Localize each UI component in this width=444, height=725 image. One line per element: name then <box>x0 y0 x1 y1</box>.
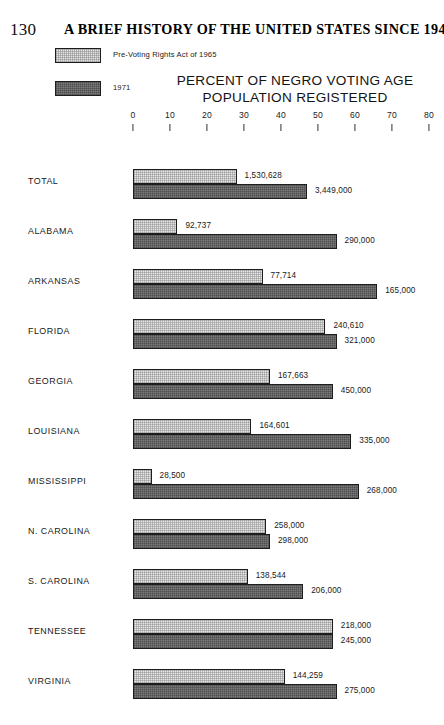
bar-value-label: 1,530,628 <box>245 171 282 180</box>
bar-value-label: 298,000 <box>278 536 308 545</box>
x-axis-tick-mark <box>317 124 318 131</box>
bar-value-label: 450,000 <box>341 386 371 395</box>
chart-row: LOUISIANA164,601335,000 <box>0 411 444 457</box>
chart-row: ALABAMA92,737290,000 <box>0 211 444 257</box>
bar-dark <box>133 484 359 499</box>
legend-label-pre-voting-rights-act: Pre-Voting Rights Act of 1965 <box>113 50 217 59</box>
chart-row: GEORGIA167,663450,000 <box>0 361 444 407</box>
bar-dark <box>133 634 333 649</box>
bar-value-label: 28,500 <box>160 471 186 480</box>
legend-label-1971: 1971 <box>113 83 131 92</box>
bar-light <box>133 619 333 634</box>
bar-value-label: 144,259 <box>293 671 323 680</box>
bar-dark <box>133 234 337 249</box>
bar-light <box>133 219 177 234</box>
bar-value-label: 77,714 <box>271 271 297 280</box>
x-axis-tick-mark <box>169 124 170 131</box>
legend-swatch-light-icon <box>55 48 101 63</box>
x-axis-tick-label: 50 <box>313 110 323 120</box>
bar-light <box>133 519 266 534</box>
bar-value-label: 258,000 <box>274 521 304 530</box>
row-category-label: TENNESSEE <box>28 626 86 636</box>
chart-title-line-2: POPULATION REGISTERED <box>150 89 440 106</box>
row-category-label: LOUISIANA <box>28 426 80 436</box>
bar-value-label: 167,663 <box>278 371 308 380</box>
bar-light <box>133 469 152 484</box>
chart-row: TOTAL1,530,6283,449,000 <box>0 161 444 207</box>
row-category-label: S. CAROLINA <box>28 576 90 586</box>
bar-dark <box>133 334 337 349</box>
x-axis: 01020304050607080 <box>0 110 444 136</box>
row-category-label: FLORIDA <box>28 326 70 336</box>
x-axis-tick-label: 20 <box>202 110 212 120</box>
bar-light <box>133 669 285 684</box>
bar-light <box>133 419 251 434</box>
bar-value-label: 138,544 <box>256 571 286 580</box>
x-axis-tick-mark <box>280 124 281 131</box>
x-axis-tick-mark <box>206 124 207 131</box>
bar-value-label: 290,000 <box>345 236 375 245</box>
chart-row: TENNESSEE218,000245,000 <box>0 611 444 657</box>
bar-light <box>133 569 248 584</box>
chart-row: ARKANSAS77,714165,000 <box>0 261 444 307</box>
chart-row: FLORIDA240,610321,000 <box>0 311 444 357</box>
x-axis-tick-label: 0 <box>131 110 136 120</box>
bar-value-label: 245,000 <box>341 636 371 645</box>
bar-dark <box>133 384 333 399</box>
chart-plot-area: TOTAL1,530,6283,449,000ALABAMA92,737290,… <box>0 145 444 725</box>
row-category-label: ARKANSAS <box>28 276 80 286</box>
bar-value-label: 335,000 <box>359 436 389 445</box>
x-axis-tick-label: 30 <box>239 110 249 120</box>
bar-value-label: 268,000 <box>367 486 397 495</box>
bar-value-label: 3,449,000 <box>315 186 352 195</box>
bar-value-label: 321,000 <box>345 336 375 345</box>
x-axis-tick-mark <box>391 124 392 131</box>
chart-row: MISSISSIPPI28,500268,000 <box>0 461 444 507</box>
row-category-label: ALABAMA <box>28 226 73 236</box>
bar-light <box>133 269 263 284</box>
x-axis-tick-mark <box>132 124 133 131</box>
bar-light <box>133 369 270 384</box>
bar-dark <box>133 184 307 199</box>
x-axis-tick-label: 80 <box>424 110 434 120</box>
bar-dark <box>133 584 303 599</box>
bar-dark <box>133 284 377 299</box>
chart-title-line-1: PERCENT OF NEGRO VOTING AGE <box>150 72 440 89</box>
chart-row: VIRGINIA144,259275,000 <box>0 661 444 707</box>
bar-light <box>133 169 237 184</box>
bar-value-label: 92,737 <box>185 221 211 230</box>
chart-title: PERCENT OF NEGRO VOTING AGE POPULATION R… <box>150 72 440 106</box>
row-category-label: GEORGIA <box>28 376 73 386</box>
bar-value-label: 218,000 <box>341 621 371 630</box>
x-axis-tick-label: 10 <box>165 110 175 120</box>
bar-value-label: 206,000 <box>311 586 341 595</box>
bar-value-label: 165,000 <box>385 286 415 295</box>
chart-row: S. CAROLINA138,544206,000 <box>0 561 444 607</box>
bar-value-label: 275,000 <box>345 686 375 695</box>
x-axis-tick-mark <box>428 124 429 131</box>
chart-row: N. CAROLINA258,000298,000 <box>0 511 444 557</box>
x-axis-tick-label: 70 <box>387 110 397 120</box>
x-axis-tick-label: 40 <box>276 110 286 120</box>
bar-value-label: 240,610 <box>333 321 363 330</box>
bar-value-label: 164,601 <box>259 421 289 430</box>
legend-swatch-dark-icon <box>55 81 101 96</box>
bar-dark <box>133 434 351 449</box>
bar-dark <box>133 534 270 549</box>
x-axis-tick-mark <box>354 124 355 131</box>
row-category-label: N. CAROLINA <box>28 526 90 536</box>
x-axis-tick-label: 60 <box>350 110 360 120</box>
running-head-title: A BRIEF HISTORY OF THE UNITED STATES SIN… <box>64 21 438 38</box>
row-category-label: MISSISSIPPI <box>28 476 86 486</box>
page-number: 130 <box>10 20 36 40</box>
bar-light <box>133 319 325 334</box>
row-category-label: TOTAL <box>28 176 58 186</box>
bar-dark <box>133 684 337 699</box>
page-header: 130 A BRIEF HISTORY OF THE UNITED STATES… <box>0 20 444 42</box>
row-category-label: VIRGINIA <box>28 676 71 686</box>
x-axis-tick-mark <box>243 124 244 131</box>
